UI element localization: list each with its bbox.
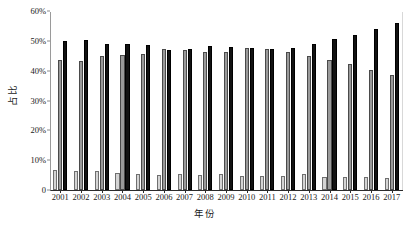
- year-group-2002: [71, 11, 92, 190]
- year-group-2008: [195, 11, 216, 190]
- bar-2011-s3: [270, 49, 274, 190]
- x-tick-label-2010: 2010: [238, 192, 255, 202]
- bar-2012-s2: [286, 52, 290, 190]
- bar-2003-s3: [105, 44, 109, 190]
- y-tick-label: 50%: [30, 36, 46, 46]
- y-tick-label: 10%: [30, 155, 46, 165]
- bar-2013-s1: [302, 174, 306, 190]
- bar-2001-s2: [58, 60, 62, 190]
- year-group-2017: [381, 11, 402, 190]
- x-axis-title: 年份: [0, 206, 409, 220]
- bar-2007-s3: [188, 49, 192, 190]
- year-group-2016: [361, 11, 382, 190]
- year-group-2011: [257, 11, 278, 190]
- y-tick-label: 30%: [30, 96, 46, 106]
- bar-2004-s2: [120, 55, 124, 190]
- bar-2012-s3: [291, 48, 295, 190]
- y-tick-label: 40%: [30, 66, 46, 76]
- bar-2016-s2: [369, 70, 373, 190]
- y-tick-label: 20%: [30, 125, 46, 135]
- bar-2003-s2: [100, 56, 104, 190]
- bar-2009-s2: [224, 52, 228, 190]
- bar-2004-s1: [115, 173, 119, 190]
- x-tick-label-2009: 2009: [218, 192, 235, 202]
- year-group-2005: [133, 11, 154, 190]
- bar-2005-s2: [141, 54, 145, 190]
- x-tick-label-2015: 2015: [342, 192, 359, 202]
- year-group-2015: [340, 11, 361, 190]
- x-tick-label-2007: 2007: [176, 192, 193, 202]
- bar-2016-s3: [374, 29, 378, 190]
- bar-2011-s2: [265, 49, 269, 190]
- year-group-2010: [236, 11, 257, 190]
- bar-2008-s3: [208, 46, 212, 190]
- bar-2003-s1: [95, 171, 99, 190]
- x-tick-label-2012: 2012: [280, 192, 297, 202]
- x-tick-label-2011: 2011: [259, 192, 276, 202]
- year-group-2012: [278, 11, 299, 190]
- year-group-2003: [91, 11, 112, 190]
- year-group-2001: [50, 11, 71, 190]
- year-group-2006: [154, 11, 175, 190]
- x-tick-label-2016: 2016: [362, 192, 379, 202]
- bar-2014-s3: [332, 39, 336, 190]
- bar-2006-s1: [157, 175, 161, 191]
- bar-2007-s2: [183, 50, 187, 190]
- bar-2001-s1: [53, 170, 57, 190]
- year-group-2004: [112, 11, 133, 190]
- bar-2008-s1: [198, 175, 202, 190]
- y-axis-title-label: 占比: [4, 85, 18, 106]
- bar-2006-s2: [162, 49, 166, 190]
- bar-2002-s2: [79, 61, 83, 190]
- x-tick-label-2002: 2002: [73, 192, 90, 202]
- bar-2010-s1: [240, 176, 244, 190]
- bar-2005-s1: [136, 174, 140, 190]
- bar-2015-s2: [348, 64, 352, 190]
- year-group-2014: [319, 11, 340, 190]
- bar-2014-s2: [327, 60, 331, 190]
- bar-2017-s3: [395, 23, 399, 190]
- year-group-2013: [298, 11, 319, 190]
- x-tick-label-2004: 2004: [114, 192, 131, 202]
- bar-2010-s3: [250, 48, 254, 190]
- year-group-2009: [216, 11, 237, 190]
- bar-2010-s2: [245, 48, 249, 190]
- bar-2009-s3: [229, 47, 233, 190]
- bar-2004-s3: [125, 44, 129, 190]
- bar-2011-s1: [260, 176, 264, 190]
- year-group-2007: [174, 11, 195, 190]
- bar-2008-s2: [203, 52, 207, 190]
- bar-2014-s1: [322, 177, 326, 190]
- bar-chart: 占比 010%20%30%40%50%60% 20012002200320042…: [0, 0, 409, 230]
- bar-2002-s1: [74, 171, 78, 190]
- bar-2012-s1: [281, 176, 285, 190]
- y-axis-tick-labels: 010%20%30%40%50%60%: [18, 0, 50, 200]
- bar-2017-s2: [390, 75, 394, 190]
- bar-2007-s1: [178, 174, 182, 190]
- bar-2001-s3: [63, 41, 67, 190]
- plot-frame-right-edge: [402, 11, 403, 190]
- x-tick-label-2001: 2001: [52, 192, 69, 202]
- bars-layer: [50, 11, 402, 190]
- bar-2016-s1: [364, 177, 368, 190]
- bar-2009-s1: [219, 174, 223, 190]
- x-tick-label-2013: 2013: [300, 192, 317, 202]
- bar-2013-s2: [307, 56, 311, 190]
- x-tick-label-2003: 2003: [93, 192, 110, 202]
- bar-2015-s3: [353, 35, 357, 190]
- x-tick-label-2005: 2005: [135, 192, 152, 202]
- x-tick-label-2006: 2006: [155, 192, 172, 202]
- bar-2005-s3: [146, 45, 150, 190]
- bar-2002-s3: [84, 40, 88, 190]
- x-axis-tick-labels: 2001200220032004200520062007200820092010…: [50, 192, 402, 206]
- bar-2006-s3: [167, 50, 171, 190]
- y-tick-label: 60%: [30, 6, 46, 16]
- x-tick-label-2008: 2008: [197, 192, 214, 202]
- bar-2017-s1: [385, 178, 389, 190]
- bar-2015-s1: [343, 177, 347, 190]
- x-tick-label-2017: 2017: [383, 192, 400, 202]
- x-tick-label-2014: 2014: [321, 192, 338, 202]
- y-tick-label: 0: [42, 185, 46, 195]
- bar-2013-s3: [312, 44, 316, 190]
